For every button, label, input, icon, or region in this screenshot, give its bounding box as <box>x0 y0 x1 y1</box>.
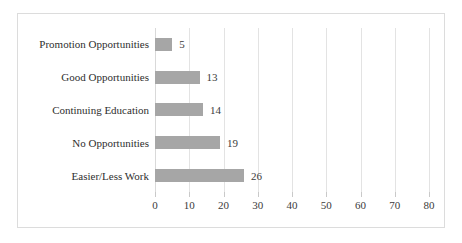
bar-value-label: 5 <box>179 39 185 50</box>
x-tick-label-50: 50 <box>321 200 332 211</box>
bar-row: Easier/Less Work26 <box>155 159 429 192</box>
category-label: Continuing Education <box>52 104 149 115</box>
x-tick-mark-70 <box>395 192 396 197</box>
category-label: Promotion Opportunities <box>39 39 149 50</box>
bar-value-label: 26 <box>251 170 262 181</box>
x-tick-mark-30 <box>258 192 259 197</box>
x-tick-label-10: 10 <box>184 200 195 211</box>
x-tick-mark-20 <box>224 192 225 197</box>
plot-wrapper: Promotion Opportunities5Good Opportuniti… <box>18 14 444 227</box>
x-tick-mark-40 <box>292 192 293 197</box>
x-tick-label-80: 80 <box>424 200 435 211</box>
x-tick-label-60: 60 <box>355 200 366 211</box>
x-tick-label-40: 40 <box>287 200 298 211</box>
bar <box>155 169 244 182</box>
plot-area: Promotion Opportunities5Good Opportuniti… <box>155 28 429 192</box>
category-label: No Opportunities <box>72 137 149 148</box>
bar-row: No Opportunities19 <box>155 126 429 159</box>
bar-value-label: 19 <box>227 137 238 148</box>
x-tick-label-20: 20 <box>218 200 229 211</box>
x-tick-mark-10 <box>189 192 190 197</box>
x-tick-label-30: 30 <box>252 200 263 211</box>
bar <box>155 38 172 51</box>
bar-row: Promotion Opportunities5 <box>155 28 429 61</box>
bar <box>155 103 203 116</box>
bar <box>155 136 220 149</box>
bar-row: Continuing Education14 <box>155 94 429 127</box>
x-tick-mark-60 <box>361 192 362 197</box>
x-tick-label-70: 70 <box>389 200 400 211</box>
bar-value-label: 13 <box>207 72 218 83</box>
bar-value-label: 14 <box>210 104 221 115</box>
bar-row: Good Opportunities13 <box>155 61 429 94</box>
x-tick-mark-50 <box>326 192 327 197</box>
category-label: Good Opportunities <box>61 72 149 83</box>
x-axis: 01020304050607080 <box>155 192 429 222</box>
category-label: Easier/Less Work <box>72 170 149 181</box>
x-tick-mark-80 <box>429 192 430 197</box>
bar <box>155 71 200 84</box>
gridline-80 <box>429 28 430 192</box>
x-tick-mark-0 <box>155 192 156 197</box>
bar-rows-group: Promotion Opportunities5Good Opportuniti… <box>155 28 429 192</box>
chart-frame: Promotion Opportunities5Good Opportuniti… <box>17 13 445 228</box>
x-tick-label-0: 0 <box>152 200 158 211</box>
